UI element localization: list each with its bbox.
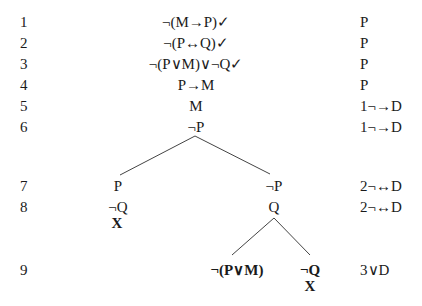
justification: P	[360, 14, 368, 30]
closed-branch-mark: X	[305, 278, 316, 294]
formula: ¬(M→P)✓	[162, 14, 230, 30]
line-number: 3	[20, 56, 28, 72]
justification: 3∨D	[360, 262, 389, 278]
formula: M	[189, 98, 202, 114]
sub-left-formula: ¬(P∨M)	[211, 262, 264, 278]
branch-left-formula: ¬Q	[108, 199, 127, 215]
branch-right-formula: ¬P	[266, 178, 283, 194]
formula: ¬P	[188, 119, 205, 135]
branch-left-formula: P	[114, 178, 122, 194]
justification: P	[360, 35, 368, 51]
closed-branch-mark: X	[112, 215, 123, 231]
sub-right-formula: ¬Q	[300, 262, 320, 278]
line-number: 6	[20, 119, 28, 135]
justification: 2¬↔D	[360, 199, 402, 215]
line-number: 9	[20, 262, 28, 278]
line-number: 1	[20, 14, 28, 30]
formula: ¬(P↔Q)✓	[163, 35, 229, 51]
justification: 1¬→D	[360, 119, 402, 135]
line-number: 4	[20, 77, 28, 93]
line-number: 8	[20, 199, 28, 215]
justification: P	[360, 77, 368, 93]
formula: P→M	[178, 77, 215, 93]
line-number: 2	[20, 35, 28, 51]
justification: 2¬↔D	[360, 178, 402, 194]
justification: 1¬→D	[360, 98, 402, 114]
line-number: 7	[20, 178, 28, 194]
justification: P	[360, 56, 368, 72]
formula: ¬(P∨M)∨¬Q✓	[149, 56, 243, 72]
line-number: 5	[20, 98, 28, 114]
branch-right-formula: Q	[269, 199, 280, 215]
